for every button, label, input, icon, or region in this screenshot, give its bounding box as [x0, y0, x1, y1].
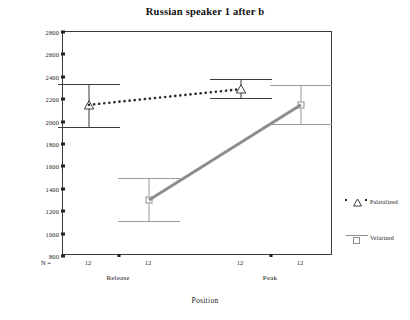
- y-axis-tick-label: 2200: [46, 96, 59, 103]
- x-axis-label: Position: [0, 296, 410, 305]
- n-count-prefix: N =: [41, 259, 51, 266]
- x-axis-group-label: Release: [106, 274, 129, 282]
- n-count-value: 12: [297, 259, 304, 266]
- y-axis-tick-label: 2800: [46, 29, 59, 36]
- y-axis-tick-label: 1800: [46, 141, 59, 148]
- n-count-value: 12: [85, 259, 92, 266]
- x-axis-tick-mark: [270, 254, 273, 257]
- y-axis-tick-label: 1400: [46, 185, 59, 192]
- y-axis-tick-label: 2000: [46, 118, 59, 125]
- legend-item-palatalized: Palatalized: [344, 196, 398, 208]
- legend-label-palatalized: Palatalized: [370, 199, 398, 205]
- plot-area: 2800260024002200200018001600140012001000…: [62, 31, 332, 255]
- y-axis-tick-mark: [61, 255, 65, 258]
- n-count-value: 12: [145, 259, 152, 266]
- y-axis-tick-label: 1200: [46, 208, 59, 215]
- error-bar-cap-lower: [270, 124, 332, 125]
- legend-item-velarized: Velarized: [344, 232, 394, 244]
- legend-label-velarized: Velarized: [370, 235, 394, 241]
- error-bar-velarized: [63, 32, 331, 254]
- x-axis-tick-mark: [118, 254, 121, 257]
- chart-figure: Russian speaker 1 after b F2 Prime 28002…: [0, 0, 410, 320]
- y-axis-tick-label: 2400: [46, 73, 59, 80]
- y-axis-tick-label: 2600: [46, 51, 59, 58]
- y-axis-tick-label: 1600: [46, 163, 59, 170]
- y-axis-tick-label: 1000: [46, 230, 59, 237]
- palatalized-marker-icon: [344, 196, 370, 208]
- data-point-marker-square: [298, 101, 305, 108]
- error-bar-cap-upper: [270, 85, 332, 86]
- n-count-value: 12: [237, 259, 244, 266]
- chart-title: Russian speaker 1 after b: [0, 6, 410, 17]
- velarized-marker-icon: [344, 232, 370, 244]
- x-axis-group-label: Peak: [263, 274, 277, 282]
